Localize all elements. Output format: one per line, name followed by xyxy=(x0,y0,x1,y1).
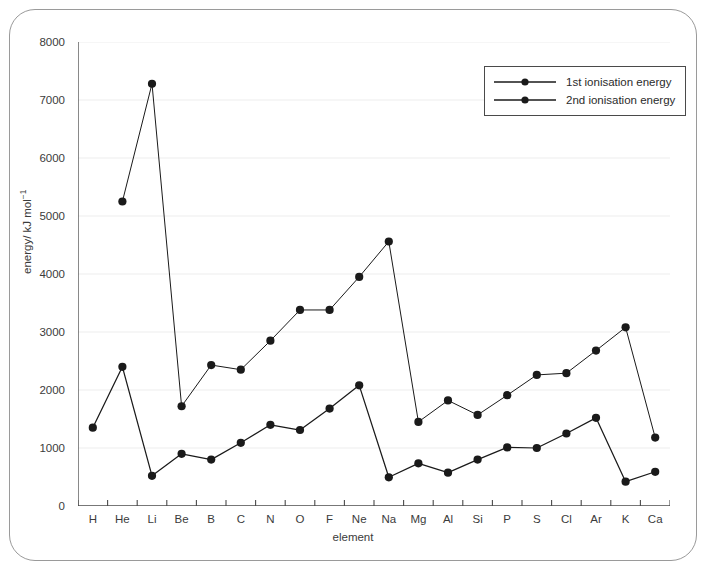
x-axis-tick-label: F xyxy=(326,513,333,525)
x-axis-tick-label: Mg xyxy=(410,513,426,525)
series-line xyxy=(93,367,655,482)
legend-swatch-series-2 xyxy=(493,94,557,106)
data-point-marker xyxy=(148,472,156,480)
y-axis-tick-label: 8000 xyxy=(0,36,65,48)
legend-item-series-1: 1st ionisation energy xyxy=(493,73,675,91)
data-point-marker xyxy=(89,424,97,432)
data-point-marker xyxy=(266,337,274,345)
x-axis-title: element xyxy=(0,531,706,543)
x-axis-ticks xyxy=(78,500,670,506)
data-point-marker xyxy=(355,381,363,389)
data-point-marker xyxy=(651,468,659,476)
x-axis-tick-label: B xyxy=(207,513,215,525)
data-point-marker xyxy=(326,306,334,314)
data-point-marker xyxy=(296,426,304,434)
data-point-marker xyxy=(651,433,659,441)
data-point-marker xyxy=(444,396,452,404)
data-point-marker xyxy=(237,366,245,374)
data-point-marker xyxy=(266,421,274,429)
data-point-marker xyxy=(622,323,630,331)
y-axis-tick-label: 3000 xyxy=(0,326,65,338)
data-point-marker xyxy=(562,369,570,377)
y-axis-tick-label: 7000 xyxy=(0,94,65,106)
y-axis-title: energy/ kJ mol−1 xyxy=(18,190,33,274)
x-axis-tick-label: He xyxy=(115,513,130,525)
data-point-marker xyxy=(118,197,126,205)
data-point-marker xyxy=(592,346,600,354)
data-point-marker xyxy=(414,418,422,426)
x-axis-tick-label: Ne xyxy=(352,513,367,525)
x-axis-tick-label: C xyxy=(237,513,245,525)
data-point-marker xyxy=(118,363,126,371)
y-axis-tick-label: 5000 xyxy=(0,210,65,222)
x-axis-tick-label: Al xyxy=(443,513,453,525)
x-axis-tick-label: Li xyxy=(148,513,157,525)
y-axis-tick-label: 4000 xyxy=(0,268,65,280)
series-line xyxy=(122,84,655,438)
x-axis-tick-label: K xyxy=(622,513,630,525)
x-axis-tick-label: Ar xyxy=(590,513,602,525)
data-point-marker xyxy=(414,459,422,467)
data-point-marker xyxy=(592,414,600,422)
data-point-marker xyxy=(355,273,363,281)
y-axis-tick-label: 0 xyxy=(0,500,65,512)
x-axis-tick-label: Na xyxy=(381,513,396,525)
data-point-marker xyxy=(296,306,304,314)
x-axis-tick-label: Ca xyxy=(648,513,663,525)
data-point-marker xyxy=(503,443,511,451)
data-series xyxy=(89,363,660,486)
x-axis-tick-label: H xyxy=(89,513,97,525)
x-axis-tick-label: N xyxy=(266,513,274,525)
data-point-marker xyxy=(385,473,393,481)
data-point-marker xyxy=(178,402,186,410)
data-point-marker xyxy=(326,404,334,412)
y-axis-tick-label: 6000 xyxy=(0,152,65,164)
data-point-marker xyxy=(385,237,393,245)
y-axis-title-superscript: −1 xyxy=(18,190,28,200)
legend-swatch-series-1 xyxy=(493,76,557,88)
data-point-marker xyxy=(474,456,482,464)
data-point-marker xyxy=(533,371,541,379)
legend-label-series-1: 1st ionisation energy xyxy=(566,76,671,88)
figure-container: energy/ kJ mol−1 element 010002000300040… xyxy=(0,0,706,570)
x-axis-tick-label: Cl xyxy=(561,513,572,525)
x-axis-tick-label: P xyxy=(503,513,511,525)
x-axis-tick-label: O xyxy=(296,513,305,525)
legend-box: 1st ionisation energy 2nd ionisation ene… xyxy=(484,66,686,116)
data-series xyxy=(118,80,659,442)
data-point-marker xyxy=(503,391,511,399)
x-axis-tick-label: Si xyxy=(472,513,482,525)
legend-label-series-2: 2nd ionisation energy xyxy=(566,94,675,106)
data-series-layer xyxy=(89,80,660,486)
data-point-marker xyxy=(622,478,630,486)
y-axis-tick-label: 1000 xyxy=(0,442,65,454)
data-point-marker xyxy=(533,444,541,452)
x-axis-tick-label: Be xyxy=(175,513,189,525)
legend-item-series-2: 2nd ionisation energy xyxy=(493,91,675,109)
data-point-marker xyxy=(148,80,156,88)
data-point-marker xyxy=(562,429,570,437)
data-point-marker xyxy=(474,411,482,419)
data-point-marker xyxy=(237,439,245,447)
x-axis-tick-label: S xyxy=(533,513,541,525)
y-axis-tick-label: 2000 xyxy=(0,384,65,396)
data-point-marker xyxy=(444,469,452,477)
data-point-marker xyxy=(207,361,215,369)
data-point-marker xyxy=(178,450,186,458)
data-point-marker xyxy=(207,456,215,464)
